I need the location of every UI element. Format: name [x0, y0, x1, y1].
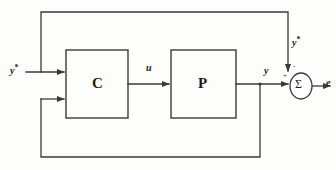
- control-signal-label: u: [146, 63, 152, 73]
- summing-junction-label: Σ: [295, 78, 302, 90]
- reference-top-path: [41, 12, 288, 72]
- output-branch-dot: [258, 82, 261, 85]
- error-signal-label: e: [326, 78, 330, 88]
- plant-block-label: P: [198, 76, 207, 91]
- summing-junction-sign-top: -: [293, 63, 295, 70]
- reference-top-label: y*: [292, 36, 300, 48]
- controller-block-label: C: [92, 76, 103, 91]
- output-feedback-path: [41, 84, 260, 157]
- output-signal-label: y: [264, 66, 268, 76]
- reference-input-label: y*: [10, 64, 18, 76]
- summing-junction-sign-left: +: [283, 73, 287, 80]
- diagram-vector-layer: [0, 0, 336, 170]
- block-diagram-canvas: y* C u P y y* Σ - + e: [0, 0, 336, 170]
